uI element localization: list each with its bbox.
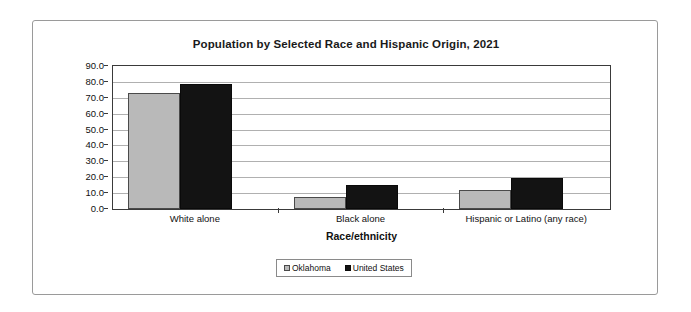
bar	[180, 84, 232, 209]
legend-entry: United States	[345, 263, 404, 273]
y-tick-mark	[104, 97, 108, 98]
y-tick-mark	[104, 176, 108, 177]
x-tick-mark	[443, 208, 444, 213]
x-axis-tick-labels: White aloneBlack aloneHispanic or Latino…	[112, 213, 611, 229]
y-tick-label: 90.0	[86, 60, 105, 71]
bar	[294, 197, 346, 209]
y-tick-label: 30.0	[86, 155, 105, 166]
y-tick-label: 50.0	[86, 123, 105, 134]
x-tick-label: Black alone	[336, 213, 385, 224]
x-tick-mark	[278, 208, 279, 213]
bar	[128, 93, 180, 209]
bar	[459, 190, 511, 209]
y-tick-label: 10.0	[86, 187, 105, 198]
y-tick-mark	[104, 129, 108, 130]
y-tick-mark	[104, 81, 108, 82]
bar	[346, 185, 398, 209]
legend-entry: Oklahoma	[284, 263, 331, 273]
y-tick-label: 20.0	[86, 171, 105, 182]
y-tick-label: 80.0	[86, 75, 105, 86]
y-tick-mark	[104, 65, 108, 66]
legend-label: Oklahoma	[292, 263, 331, 273]
y-tick-label: 0.0	[91, 203, 104, 214]
gridline	[113, 82, 610, 83]
y-tick-label: 40.0	[86, 139, 105, 150]
legend-label: United States	[353, 263, 404, 273]
y-tick-mark	[104, 113, 108, 114]
chart-legend: OklahomaUnited States	[276, 259, 412, 277]
x-tick-label: White alone	[170, 213, 220, 224]
y-tick-mark	[104, 192, 108, 193]
legend-swatch-icon	[284, 265, 290, 271]
y-tick-mark	[104, 208, 108, 209]
x-tick-label: Hispanic or Latino (any race)	[465, 213, 586, 224]
y-axis-tick-labels: 90.080.070.060.050.040.030.020.010.00.0	[63, 65, 108, 210]
chart-title: Population by Selected Race and Hispanic…	[33, 38, 659, 50]
bar	[511, 178, 563, 209]
y-tick-mark	[104, 144, 108, 145]
x-axis-title: Race/ethnicity	[112, 230, 611, 242]
plot-area	[112, 65, 611, 210]
y-tick-mark	[104, 160, 108, 161]
chart-figure-frame: Population by Selected Race and Hispanic…	[32, 20, 658, 295]
y-tick-label: 70.0	[86, 91, 105, 102]
legend-swatch-icon	[345, 265, 351, 271]
y-tick-label: 60.0	[86, 107, 105, 118]
